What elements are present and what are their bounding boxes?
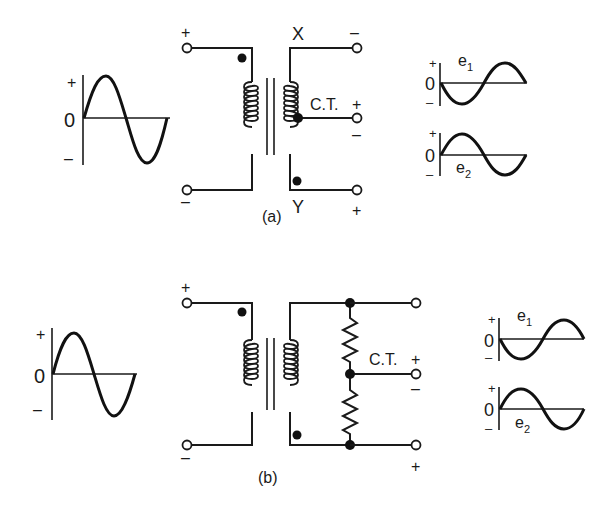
plus-label: + bbox=[429, 56, 437, 71]
primary-plus-label: + bbox=[181, 279, 190, 296]
minus-label: – bbox=[426, 95, 434, 110]
minus-label: – bbox=[64, 150, 73, 167]
primary-winding-b: + – bbox=[181, 279, 258, 466]
terminal-icon bbox=[412, 441, 421, 450]
input-waveform-a: + 0 – bbox=[64, 74, 170, 167]
polarity-dot-icon bbox=[238, 54, 247, 63]
plus-label: + bbox=[488, 381, 496, 396]
minus-label: – bbox=[485, 350, 493, 365]
plus-label: + bbox=[429, 126, 437, 141]
secondary-coil-icon bbox=[284, 340, 298, 385]
resistor-top-icon bbox=[343, 303, 357, 374]
zero-label: 0 bbox=[425, 146, 435, 166]
plus-label: + bbox=[36, 326, 45, 343]
terminal-icon bbox=[412, 299, 421, 308]
plus-label: + bbox=[67, 74, 76, 91]
x-label: X bbox=[292, 24, 304, 44]
resistor-bottom-icon bbox=[343, 374, 357, 445]
ct-label: C.T. bbox=[310, 96, 338, 113]
zero-label: 0 bbox=[34, 365, 45, 387]
zero-label: 0 bbox=[484, 331, 494, 351]
ct-minus-label: – bbox=[411, 380, 420, 397]
terminal-icon bbox=[353, 186, 362, 195]
panel-caption-b: (b) bbox=[258, 469, 278, 486]
y-label: Y bbox=[292, 197, 304, 217]
output-waveform-e2-b: + 0 – e2 bbox=[484, 381, 584, 436]
ct-label: C.T. bbox=[369, 351, 397, 368]
secondary-winding-a: X Y – C.T. + – + bbox=[284, 24, 362, 219]
secondary-winding-b: C.T. + – + bbox=[284, 298, 421, 475]
primary-minus-label: – bbox=[181, 449, 190, 466]
wire bbox=[191, 154, 252, 190]
wire bbox=[290, 48, 352, 82]
terminal-icon bbox=[412, 370, 421, 379]
e1-label: e1 bbox=[458, 52, 473, 73]
plus-label: + bbox=[488, 312, 496, 327]
ct-plus-label: + bbox=[411, 351, 420, 368]
primary-coil-icon bbox=[244, 340, 258, 385]
primary-plus-label: + bbox=[181, 24, 190, 41]
output-waveform-e1-b: + 0 – e1 bbox=[484, 307, 584, 365]
panel-b: + 0 – + – bbox=[33, 279, 584, 486]
top-minus-label: – bbox=[350, 24, 359, 41]
panel-caption-a: (a) bbox=[262, 208, 282, 225]
terminal-icon bbox=[353, 114, 362, 123]
wire bbox=[191, 48, 252, 82]
polarity-dot-icon bbox=[293, 177, 302, 186]
output-waveform-e1-a: + 0 – e1 bbox=[425, 52, 527, 110]
wire bbox=[290, 303, 352, 340]
bottom-plus-label: + bbox=[411, 458, 420, 475]
zero-label: 0 bbox=[425, 74, 435, 94]
ct-plus-label: + bbox=[352, 96, 361, 113]
polarity-dot-icon bbox=[238, 308, 247, 317]
e2-label: e2 bbox=[456, 159, 471, 180]
terminal-icon bbox=[353, 44, 362, 53]
center-tapped-transformer-diagram: + 0 – + – X bbox=[0, 0, 616, 505]
ct-minus-label: – bbox=[352, 126, 361, 143]
sine-wave bbox=[84, 76, 167, 163]
panel-a: + 0 – + – X bbox=[64, 24, 527, 225]
output-waveform-e2-a: + 0 – e2 bbox=[425, 126, 527, 182]
bottom-plus-label: + bbox=[352, 202, 361, 219]
e2-label: e2 bbox=[515, 414, 530, 435]
minus-label: – bbox=[426, 167, 434, 182]
e1-label: e1 bbox=[517, 307, 532, 328]
zero-label: 0 bbox=[484, 400, 494, 420]
primary-minus-label: – bbox=[181, 193, 190, 210]
terminal-icon bbox=[183, 44, 192, 53]
polarity-dot-icon bbox=[293, 431, 302, 440]
minus-label: – bbox=[33, 401, 42, 418]
wire bbox=[191, 412, 252, 445]
zero-label: 0 bbox=[64, 109, 75, 131]
terminal-icon bbox=[183, 299, 192, 308]
minus-label: – bbox=[485, 421, 493, 436]
primary-winding-a: + – bbox=[181, 24, 258, 210]
junction-dot-icon bbox=[293, 113, 303, 123]
input-waveform-b: + 0 – bbox=[33, 326, 137, 420]
primary-coil-icon bbox=[244, 82, 258, 127]
junction-dot-icon bbox=[345, 369, 355, 379]
